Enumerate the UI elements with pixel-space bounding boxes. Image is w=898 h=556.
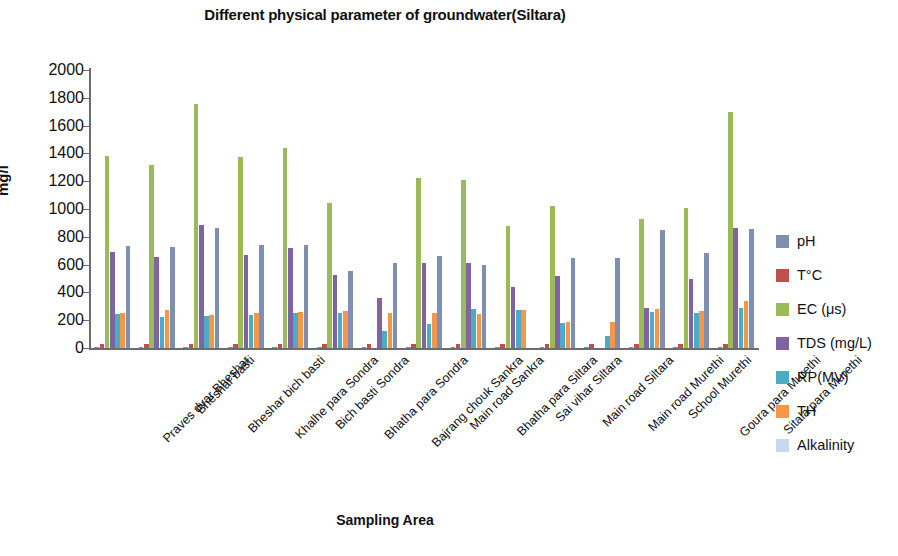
bar (278, 344, 283, 348)
legend-item[interactable]: pH (776, 224, 894, 258)
legend-swatch-icon (776, 405, 789, 418)
bar (377, 298, 382, 348)
bar (254, 313, 259, 348)
bar (115, 314, 120, 348)
bar (338, 313, 343, 348)
legend-item-label: T°C (797, 267, 822, 283)
bar (655, 309, 660, 348)
bar (367, 344, 372, 348)
legend-item-label: TDS (mg/L) (797, 335, 872, 351)
bar (673, 347, 678, 348)
bar (228, 347, 233, 348)
legend-item[interactable]: Alkalinity (776, 428, 894, 462)
legend-item[interactable]: T°C (776, 258, 894, 292)
bar (249, 315, 254, 348)
bar (689, 279, 694, 349)
bar-group (446, 70, 491, 348)
bar (684, 208, 689, 348)
legend-item-label: Alkalinity (797, 437, 854, 453)
bar (451, 347, 456, 348)
bar (660, 230, 665, 348)
bar (416, 178, 421, 348)
y-axis-tick-label: 0 (75, 338, 84, 358)
legend-item-label: pH (797, 233, 816, 249)
y-axis-tick-mark (83, 98, 90, 99)
y-axis-tick-mark (83, 209, 90, 210)
bar (100, 344, 105, 348)
bar (304, 245, 309, 348)
legend-item[interactable]: RP(MV) (776, 360, 894, 394)
bar (170, 247, 175, 348)
legend-swatch-icon (776, 439, 789, 452)
bar-group (179, 70, 224, 348)
bar (482, 265, 487, 348)
bar (233, 344, 238, 348)
bar (422, 263, 427, 348)
bar (466, 263, 471, 348)
bar (511, 287, 516, 348)
bar (189, 344, 194, 348)
bar-chart: Different physical parameter of groundwa… (0, 0, 898, 556)
bar (728, 112, 733, 348)
page-edge (0, 548, 898, 556)
bar (288, 248, 293, 348)
bar (566, 322, 571, 348)
y-axis-tick-mark (83, 292, 90, 293)
plot-area: 2000180016001400120010008006004002000 (90, 70, 758, 348)
y-axis-tick-label: 400 (57, 282, 84, 302)
bar (343, 311, 348, 348)
legend-item[interactable]: TH (776, 394, 894, 428)
y-axis-tick-label: 1600 (48, 116, 84, 136)
bar-group (135, 70, 180, 348)
bar (718, 347, 723, 348)
bar (259, 245, 264, 348)
y-axis-title: mg/l (0, 165, 11, 196)
y-axis-tick-mark (83, 181, 90, 182)
legend-item-label: RP(MV) (797, 369, 849, 385)
bar (432, 313, 437, 348)
bar (238, 157, 243, 348)
legend-swatch-icon (776, 235, 789, 248)
bar (461, 180, 466, 348)
bar-group (224, 70, 269, 348)
bar (199, 225, 204, 348)
bar-group (580, 70, 625, 348)
bar (322, 344, 327, 348)
bar (495, 347, 500, 348)
bar (477, 314, 482, 348)
y-axis-tick-mark (83, 265, 90, 266)
legend-item-label: EC (μs) (797, 301, 846, 317)
bar (120, 313, 125, 348)
bar (204, 316, 209, 348)
bar (704, 253, 709, 348)
legend-swatch-icon (776, 269, 789, 282)
y-axis-tick-mark (83, 70, 90, 71)
bar (283, 148, 288, 348)
chart-title: Different physical parameter of groundwa… (0, 6, 770, 23)
bar (678, 344, 683, 348)
bar (550, 206, 555, 348)
legend-item[interactable]: TDS (mg/L) (776, 326, 894, 360)
bar (327, 203, 332, 348)
bar (749, 229, 754, 348)
bar (272, 347, 277, 348)
y-axis-tick-mark (83, 153, 90, 154)
legend-item[interactable]: EC (μs) (776, 292, 894, 326)
bar (456, 344, 461, 348)
x-axis-title: Sampling Area (0, 512, 770, 528)
legend-item-label: TH (797, 403, 816, 419)
bar-group (90, 70, 135, 348)
bar (605, 336, 610, 349)
bar (348, 271, 353, 348)
bar (154, 257, 159, 348)
bar (560, 323, 565, 348)
y-axis-tick-label: 1800 (48, 88, 84, 108)
bar-group (268, 70, 313, 348)
bar (382, 331, 387, 348)
bar-group (669, 70, 714, 348)
bar (411, 344, 416, 348)
y-axis-tick-mark (83, 348, 90, 349)
y-axis-tick-label: 1000 (48, 199, 84, 219)
y-axis-tick-label: 1200 (48, 171, 84, 191)
bar (516, 310, 521, 348)
